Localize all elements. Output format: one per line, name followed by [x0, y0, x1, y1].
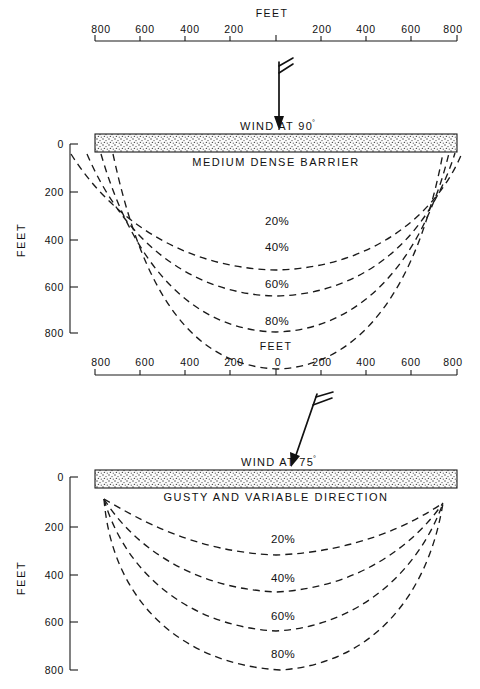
top-scale-tick-label: 400 — [356, 23, 375, 35]
bottom-vaxis-tick-label: 200 — [45, 521, 64, 533]
contour-label-20-bottom: 20% — [271, 533, 295, 545]
top-scale-tick-label: 600 — [401, 23, 420, 35]
bottom-scale-tick-label: 800 — [91, 356, 110, 368]
wind-barrier-figure: FEET 800 600 400 200 200 400 600 800 — [0, 0, 480, 689]
top-vaxis-tick-label: 600 — [45, 281, 64, 293]
bottom-scale-tick-label: 600 — [401, 356, 420, 368]
figure-background — [0, 0, 480, 689]
top-scale-tick-label: 200 — [224, 23, 243, 35]
bottom-scale-tick-label-center: 0 — [275, 356, 281, 368]
bottom-vaxis-tick-label: 800 — [45, 664, 64, 676]
top-vaxis-tick-label: 800 — [45, 327, 64, 339]
top-vaxis-tick-label: 200 — [45, 186, 64, 198]
bottom-scale-tick-label: 400 — [356, 356, 375, 368]
bottom-vaxis-tick-label: 600 — [45, 616, 64, 628]
top-vaxis-tick-label: 0 — [58, 138, 64, 150]
barrier-caption-top: MEDIUM DENSE BARRIER — [192, 156, 360, 168]
bottom-scale-tick-label: 600 — [135, 356, 154, 368]
top-vaxis-name: FEET — [15, 223, 27, 258]
barrier-caption-bottom: GUSTY AND VARIABLE DIRECTION — [164, 491, 389, 503]
top-scale-tick-label: 400 — [180, 23, 199, 35]
contour-label-80-top: 80% — [265, 315, 289, 327]
wind-label-top: WIND AT 90 — [240, 120, 313, 132]
bottom-vaxis-tick-label: 0 — [58, 471, 64, 483]
contour-label-20-top: 20% — [265, 215, 289, 227]
top-scale-axis-label: FEET — [256, 7, 288, 19]
bottom-scale-axis-label: FEET — [260, 340, 292, 352]
top-scale-tick-label: 800 — [91, 23, 110, 35]
contour-label-80-bottom: 80% — [271, 648, 295, 660]
bottom-scale-tick-label: 800 — [443, 356, 462, 368]
bottom-vaxis-tick-label: 400 — [45, 569, 64, 581]
contour-label-40-bottom: 40% — [271, 572, 295, 584]
bottom-scale-tick-label: 200 — [224, 356, 243, 368]
top-scale-tick-label: 200 — [312, 23, 331, 35]
barrier-bar-top — [95, 134, 457, 152]
bottom-scale-tick-label: 400 — [180, 356, 199, 368]
contour-label-60-top: 60% — [265, 278, 289, 290]
top-scale-tick-label: 800 — [443, 23, 462, 35]
bottom-vaxis-name: FEET — [15, 561, 27, 596]
wind-label-bottom: WIND AT 75 — [241, 456, 314, 468]
wind-degree-symbol-bottom: ° — [313, 454, 317, 463]
wind-degree-symbol-top: ° — [312, 118, 316, 127]
top-scale-tick-label: 600 — [135, 23, 154, 35]
top-vaxis-tick-label: 400 — [45, 234, 64, 246]
contour-label-40-top: 40% — [265, 241, 289, 253]
bottom-scale-tick-label: 200 — [312, 356, 331, 368]
contour-label-60-bottom: 60% — [271, 610, 295, 622]
barrier-bar-bottom — [95, 470, 457, 488]
